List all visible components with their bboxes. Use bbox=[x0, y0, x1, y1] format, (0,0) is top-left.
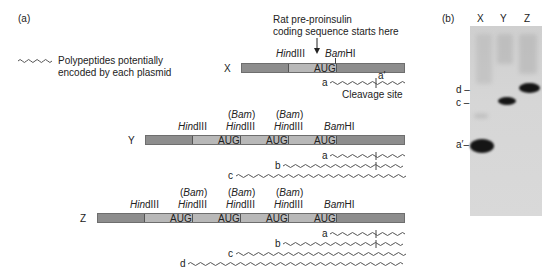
z-site-5: BamHI bbox=[324, 199, 355, 210]
lane-x-label: X bbox=[477, 13, 484, 24]
marker-a-prime: a′– bbox=[456, 139, 469, 150]
construct-z-label: Z bbox=[80, 213, 86, 224]
y-polypeptide-a bbox=[330, 153, 406, 159]
y-polypeptide-b-label: b bbox=[275, 160, 281, 171]
construct-y-label: Y bbox=[128, 135, 135, 146]
z-polypeptide-c-label: c bbox=[228, 248, 233, 259]
down-arrow-icon bbox=[314, 38, 320, 54]
band-y-c bbox=[498, 97, 516, 105]
z-site-3-top: (Bam) bbox=[228, 187, 255, 198]
y-site-3: HindIII bbox=[274, 121, 303, 132]
z-aug-2: AUG bbox=[218, 214, 240, 223]
lane-y-label: Y bbox=[500, 13, 507, 24]
panel-a-label: (a) bbox=[18, 13, 30, 24]
z-site-2-top: (Bam) bbox=[180, 187, 207, 198]
band-z-d bbox=[519, 83, 540, 93]
y-aug-1: AUG bbox=[218, 136, 240, 145]
panel-b-label: (b) bbox=[442, 13, 454, 24]
plasmid-z-bar: AUG AUG AUG AUG bbox=[97, 213, 405, 223]
wavy-line-icon bbox=[18, 58, 52, 64]
z-site-4-top: (Bam) bbox=[276, 187, 303, 198]
z-aug-1: AUG bbox=[170, 214, 192, 223]
gel-image bbox=[470, 26, 542, 216]
y-polypeptide-a-label: a bbox=[322, 150, 328, 161]
y-aug-3: AUG bbox=[314, 136, 336, 145]
y-site-4: BamHI bbox=[324, 121, 355, 132]
annotation-line-1: Rat pre-proinsulin bbox=[273, 14, 352, 25]
z-polypeptide-b bbox=[283, 241, 406, 247]
z-aug-3: AUG bbox=[266, 214, 288, 223]
z-site-3: HindIII bbox=[226, 199, 255, 210]
y-polypeptide-c-label: c bbox=[228, 170, 233, 181]
z-polypeptide-d bbox=[188, 261, 406, 267]
marker-c: c – bbox=[456, 97, 469, 108]
x-bamhi-tick bbox=[335, 58, 336, 64]
legend-line-1: Polypeptides potentially bbox=[58, 55, 163, 66]
x-site-hindiii: HindIII bbox=[276, 48, 305, 59]
y-polypeptide-c bbox=[236, 173, 406, 179]
y-polypeptide-b bbox=[283, 163, 406, 169]
x-site-bamhi: BamHI bbox=[325, 48, 356, 59]
y-site-2-top: (Bam) bbox=[228, 109, 255, 120]
y-site-3-top: (Bam) bbox=[276, 109, 303, 120]
band-x-a-prime bbox=[470, 139, 494, 153]
y-aug-2: AUG bbox=[266, 136, 288, 145]
z-aug-4: AUG bbox=[314, 214, 336, 223]
cleavage-site-text: Cleavage site bbox=[342, 89, 403, 100]
annotation-line-2: coding sequence starts here bbox=[273, 26, 399, 37]
construct-x-label: X bbox=[224, 63, 231, 74]
marker-d: d – bbox=[456, 84, 470, 95]
z-site-2: HindIII bbox=[178, 199, 207, 210]
x-polypeptide-a-label: a bbox=[322, 77, 328, 88]
y-site-1: HindIII bbox=[178, 121, 207, 132]
z-polypeptide-c bbox=[236, 251, 406, 257]
plasmid-y-bar: AUG AUG AUG bbox=[145, 135, 405, 145]
x-cleavage-label: a′ bbox=[378, 70, 385, 81]
x-aug-label: AUG bbox=[314, 64, 336, 73]
x-polypeptide-a bbox=[330, 80, 406, 86]
z-polypeptide-d-label: d bbox=[180, 258, 186, 269]
legend-line-2: encoded by each plasmid bbox=[58, 67, 171, 78]
z-polypeptide-a-label: a bbox=[322, 228, 328, 239]
z-polypeptide-a bbox=[330, 231, 406, 237]
z-site-1: HindIII bbox=[130, 199, 159, 210]
y-site-2: HindIII bbox=[226, 121, 255, 132]
z-polypeptide-b-label: b bbox=[275, 238, 281, 249]
z-site-4: HindIII bbox=[274, 199, 303, 210]
lane-z-label: Z bbox=[524, 13, 530, 24]
